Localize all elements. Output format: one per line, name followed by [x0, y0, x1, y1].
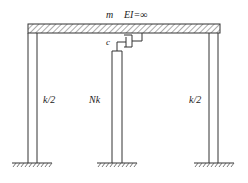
- right-column-label: k/2: [189, 94, 201, 105]
- damper-label: c: [106, 37, 110, 47]
- middle-column: [112, 51, 122, 163]
- right-column: [209, 33, 218, 163]
- damper-icon: [117, 33, 142, 51]
- left-column: [28, 33, 37, 163]
- left-column-label: k/2: [43, 94, 55, 105]
- rigid-beam: [28, 24, 220, 33]
- frame-diagram: [0, 0, 248, 183]
- middle-column-label: Nk: [89, 94, 100, 105]
- rigidity-label: EI=∞: [124, 9, 147, 20]
- mass-label: m: [106, 9, 113, 20]
